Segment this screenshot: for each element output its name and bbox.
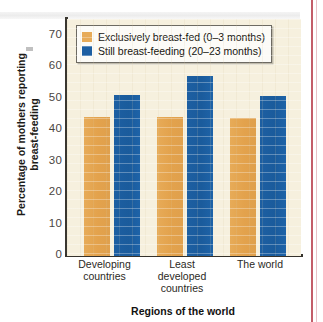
y-axis-title-line2: breast-feeding [27, 42, 40, 228]
x-category-line: Least [141, 258, 223, 270]
page-edge-line-secondary [316, 0, 317, 322]
bar-least-developed-exclusive[interactable] [157, 117, 183, 256]
legend: Exclusively breast-fed (0–3 months) Stil… [76, 25, 272, 63]
legend-entry-still[interactable]: Still breast-feeding (20–23 months) [82, 44, 265, 58]
x-category-label-developing: Developing countries [62, 258, 147, 282]
y-tick-label: 70 [2, 28, 62, 40]
blue-swatch-icon [82, 46, 92, 56]
x-category-line: countries [62, 270, 147, 282]
y-tick-label: 0 [2, 248, 62, 260]
x-category-line: The world [218, 258, 302, 270]
page-edge-line [311, 0, 313, 322]
legend-label: Exclusively breast-fed (0–3 months) [98, 31, 265, 43]
legend-entry-exclusive[interactable]: Exclusively breast-fed (0–3 months) [82, 30, 265, 44]
bar-developing-exclusive[interactable] [84, 117, 110, 256]
bar-least-developed-still[interactable] [187, 76, 213, 256]
bar-the-world-exclusive[interactable] [230, 118, 256, 256]
y-axis-title-line1: Percentage of mothers reporting [15, 42, 28, 228]
x-category-line: countries [141, 282, 223, 294]
x-category-label-the-world: The world [218, 258, 302, 270]
bar-the-world-still[interactable] [260, 96, 286, 256]
page-margin [300, 0, 311, 322]
x-category-line: developed [141, 270, 223, 282]
x-category-line: Developing [62, 258, 147, 270]
plot-area: Exclusively breast-fed (0–3 months) Stil… [67, 19, 301, 256]
figure-canvas: 70 60 50 40 30 20 10 0 Percentage of mot… [0, 0, 323, 322]
x-category-label-least-developed: Least developed countries [141, 258, 223, 294]
legend-label: Still breast-feeding (20–23 months) [98, 45, 261, 57]
orange-swatch-icon [82, 32, 92, 42]
bar-developing-still[interactable] [114, 95, 140, 256]
x-axis-title: Regions of the world [60, 305, 306, 317]
y-axis-title: Percentage of mothers reporting breast-f… [15, 42, 40, 228]
